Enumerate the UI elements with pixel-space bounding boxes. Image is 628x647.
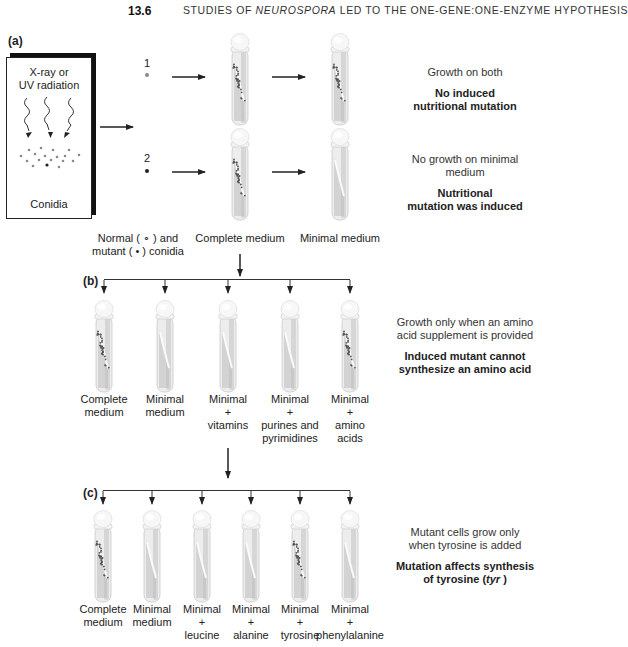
test-tube-icon [153,300,177,396]
normal-conidium [58,166,61,169]
panel-c-conclusion-gene: tyr [486,573,500,585]
panel-c-conclusion-line1: Mutation affects synthesis [396,560,534,572]
bracket-b-drops [104,280,350,293]
panel-b-label: (b) [83,274,98,288]
tube-b-4 [278,300,302,396]
normal-conidium [62,160,65,163]
tube-c-6 [338,510,362,606]
row2-result: No growth on minimal medium Nutritionalm… [390,153,540,213]
test-tube-icon [278,300,302,396]
panel-b-conclusion-line2: synthesize an amino acid [399,363,532,375]
tube-b-1 [92,300,116,396]
normal-conidium-dot [145,73,149,77]
normal-conidium [32,165,35,168]
normal-conidium [72,160,75,163]
box-title-line1: X-ray or [7,66,91,79]
row2-conclusion-line1: Nutritional [438,187,493,199]
test-tube-icon [91,510,115,606]
conidia-legend: Normal ( ∘ ) and mutant ( • ) conidia [88,232,188,258]
conidia-dots [20,147,81,169]
panel-c-label: (c) [83,486,98,500]
normal-conidium [52,149,55,152]
panel-c-result: Mutant cells grow only when tyrosine is … [385,526,545,586]
tube-b-label-line3: amino [310,419,390,432]
tube-c-2 [140,510,164,606]
test-tube-icon [239,510,263,606]
panel-b-conclusion-line1: Induced mutant cannot [405,350,526,362]
tube-c-1 [91,510,115,606]
row1-conclusion-line2: nutritional mutation [413,100,516,112]
panel-c-conclusion-prefix: of tyrosine ( [423,573,486,585]
row1-conclusion-line1: No induced [435,87,495,99]
tube-c-3 [190,510,214,606]
row2-note-line2: medium [445,166,484,178]
normal-conidium [28,149,31,152]
panel-b-note-line1: Growth only when an amino [397,316,533,328]
test-tube-icon [328,33,352,129]
mutant-conidium [45,163,48,166]
normal-conidium [40,147,43,150]
radiation-wave-icon [25,97,74,131]
test-tube-icon [216,300,240,396]
tube-b-label-line1: Minimal [310,393,390,406]
tube-c-label: Minimal+phenylalanine [310,603,390,642]
tube-a2-minimal [328,128,352,224]
box-title: X-ray or UV radiation [7,66,91,92]
box-caption: Conidia [7,198,91,210]
tube-c-label-line3: phenylalanine [310,629,390,642]
panel-c-conclusion: Mutation affects synthesisof tyrosine (t… [385,560,545,586]
tube-a1-minimal [328,33,352,129]
panel-b-note-line2: acid supplement is provided [397,329,533,341]
mutant-conidium-dot [145,169,149,173]
test-tube-icon [328,128,352,224]
tube-c-label-line2: + [310,616,390,629]
panel-c-note-line2: when tyrosine is added [409,539,522,551]
normal-conidium [34,153,37,156]
normal-conidium [68,149,71,152]
test-tube-icon [140,510,164,606]
arrowhead-icon [26,132,70,138]
normal-conidium [78,154,81,157]
label-minimal-medium: Minimal medium [290,232,390,245]
legend-line2: mutant ( • ) conidia [88,245,188,258]
normal-conidium [20,155,23,158]
test-tube-icon [338,300,362,396]
panel-c-note-line1: Mutant cells grow only [411,526,520,538]
radiation-and-conidia-illustration [7,94,91,194]
row1-result: Growth on both No inducednutritional mut… [390,66,540,113]
tube-c-label-line1: Minimal [310,603,390,616]
row2-note-line1: No growth on minimal [412,153,518,165]
panel-b-result: Growth only when an amino acid supplemen… [385,316,545,376]
panel-b-conclusion: Induced mutant cannotsynthesize an amino… [385,350,545,376]
test-tube-icon [92,300,116,396]
label-complete-medium: Complete medium [190,232,290,245]
tube-c-4 [239,510,263,606]
irradiation-box: X-ray or UV radiation Conidia [6,57,92,219]
tube-c-5 [288,510,312,606]
test-tube-icon [228,128,252,224]
row2-conclusion: Nutritionalmutation was induced [390,187,540,213]
normal-conidium [64,155,67,158]
bracket-c-drops [103,491,350,504]
row2-conclusion-line2: mutation was induced [407,200,523,212]
test-tube-icon [228,33,252,129]
panel-c-conclusion-suffix: ) [500,573,507,585]
normal-conidium [26,160,29,163]
tube-b-label: Minimal+aminoacids [310,393,390,445]
conidium-1-number: 1 [140,57,154,70]
test-tube-icon [338,510,362,606]
normal-conidium [56,156,59,159]
row1-conclusion: No inducednutritional mutation [390,87,540,113]
normal-conidium [50,159,53,162]
tube-b-label-line4: acids [310,432,390,445]
tube-b-2 [153,300,177,396]
tube-b-5 [338,300,362,396]
box-title-line2: UV radiation [7,79,91,92]
tube-b-3 [216,300,240,396]
legend-line1: Normal ( ∘ ) and [88,232,188,245]
panel-a-label: (a) [8,34,23,48]
normal-conidium [44,155,47,158]
conidium-2-number: 2 [140,152,154,165]
tube-a2-complete [228,128,252,224]
test-tube-icon [288,510,312,606]
